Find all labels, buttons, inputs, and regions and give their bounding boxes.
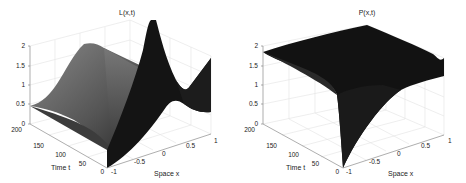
x-tick: -0.5: [134, 158, 146, 165]
x-tick: 0.5: [421, 142, 430, 149]
x-axis-label: Space x: [388, 170, 414, 178]
plot-title: L(x,t): [119, 9, 135, 17]
z-tick: 2: [21, 42, 25, 49]
plot-canvas-P: 2 1.5 1 0.5 0 200 150 100 50 0 -1 -0.5 0…: [233, 0, 466, 183]
t-tick: 0: [335, 168, 339, 175]
z-tick: 1: [21, 81, 25, 88]
x-tick: 1: [448, 137, 452, 144]
x-tick: 0.5: [186, 142, 195, 149]
surface-plot-P: 2 1.5 1 0.5 0 200 150 100 50 0 -1 -0.5 0…: [233, 0, 466, 183]
x-tick: -1: [111, 168, 117, 175]
surface-P: [263, 25, 444, 168]
x-axis-label: Space x: [154, 170, 180, 178]
z-tick: 0.5: [249, 100, 258, 107]
z-tick: 1.5: [16, 62, 25, 69]
t-axis-label: Time t: [286, 164, 305, 171]
z-tick: 1.5: [249, 62, 258, 69]
t-tick: 100: [55, 151, 66, 158]
t-tick: 200: [11, 126, 22, 133]
x-tick: -0.5: [369, 158, 381, 165]
x-tick: 1: [214, 137, 218, 144]
x-tick: -1: [346, 168, 352, 175]
t-tick: 50: [79, 160, 87, 167]
t-tick: 200: [244, 126, 255, 133]
x-tick: 0: [162, 150, 166, 157]
plot-canvas-L: 2 1.5 1 0.5 0 200 150 100 50 0 -1 -0.5 0…: [0, 0, 233, 183]
z-tick: 1: [254, 81, 258, 88]
surface-plot-L: 2 1.5 1 0.5 0 200 150 100 50 0 -1 -0.5 0…: [0, 0, 233, 183]
t-tick: 150: [33, 142, 44, 149]
x-tick: 0: [397, 150, 401, 157]
t-tick: 100: [288, 151, 299, 158]
t-tick: 50: [312, 160, 320, 167]
t-tick: 150: [266, 142, 277, 149]
plot-title: P(x,t): [359, 9, 376, 17]
z-tick: 2: [254, 42, 258, 49]
t-axis-label: Time t: [51, 164, 70, 171]
z-tick: 0.5: [16, 100, 25, 107]
t-tick: 0: [100, 168, 104, 175]
